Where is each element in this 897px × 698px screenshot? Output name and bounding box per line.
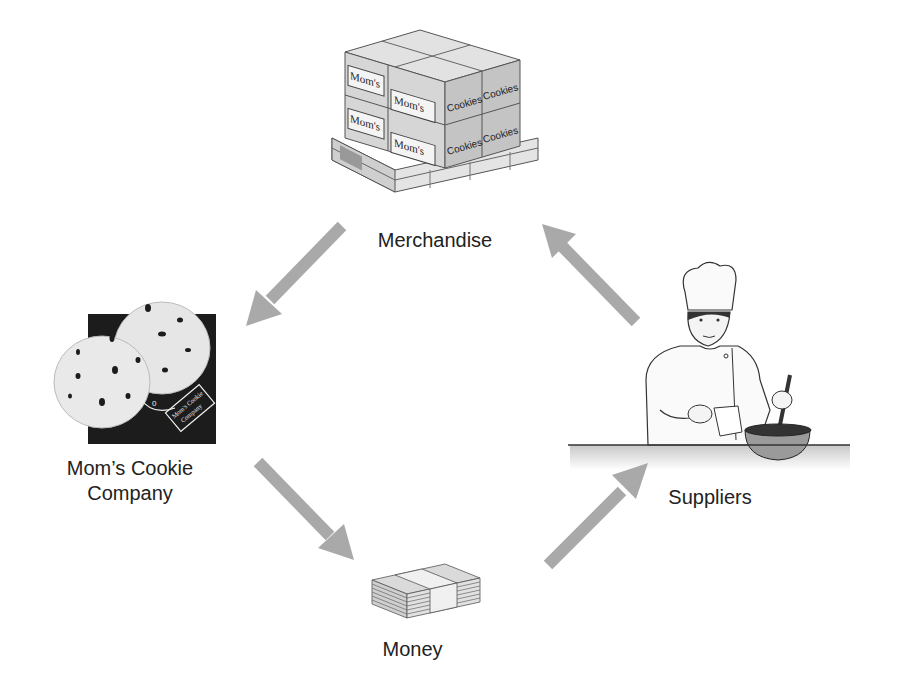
company-label-line2: Company <box>40 481 220 506</box>
arrow-down-right-icon <box>246 450 376 580</box>
pallet-of-boxes-icon: Mom's Mom's Mom's Mom's Cookies Cookies … <box>320 20 550 220</box>
company-label-line1: Mom’s Cookie <box>40 456 220 481</box>
arrow-up-left-icon <box>528 212 648 342</box>
arrow-up-right-icon <box>536 455 666 585</box>
cookies-logo-icon: Mom's Cookie Company 0 <box>40 290 240 450</box>
svg-text:0: 0 <box>152 399 157 408</box>
company-node: Mom's Cookie Company 0 Mom’s Cookie Comp… <box>40 290 240 510</box>
arrow-down-left-icon <box>230 212 360 342</box>
money-label: Money <box>350 637 475 662</box>
